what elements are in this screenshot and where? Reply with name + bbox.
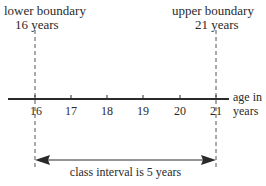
upper-boundary-value: 21 years [195, 17, 239, 32]
tick-label-20: 20 [170, 104, 190, 118]
lower-boundary-title: lower boundary [4, 3, 86, 18]
axis-label-line2: years [233, 104, 258, 119]
right-arrowhead-icon [201, 155, 216, 165]
tick-label-17: 17 [61, 104, 81, 118]
tick-label-19: 19 [133, 104, 153, 118]
lower-boundary-value: 16 years [15, 17, 59, 32]
tick-label-18: 18 [97, 104, 117, 118]
tick-label-16: 16 [26, 104, 46, 118]
left-arrowhead-icon [35, 155, 50, 165]
upper-boundary-title: upper boundary [172, 3, 254, 18]
tick-label-21: 21 [206, 104, 226, 118]
class-interval-label: class interval is 5 years [35, 165, 216, 180]
axis-label-line1: age in [233, 90, 262, 105]
